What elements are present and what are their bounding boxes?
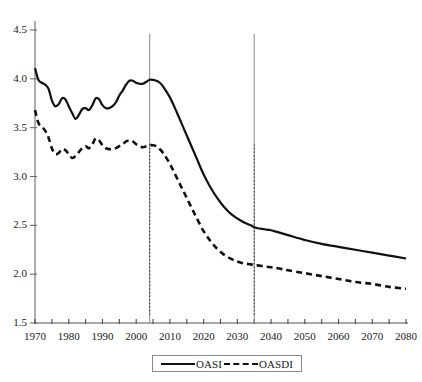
chart-container: 1.52.02.53.03.54.04.5 197019801990200020… xyxy=(0,0,422,382)
legend-label-oasi: OASI xyxy=(196,358,222,370)
vertical-reference-lines xyxy=(150,34,255,323)
y-tick-label: 1.5 xyxy=(0,317,27,328)
y-tick-label: 2.5 xyxy=(0,219,27,230)
legend-entry-oasi: OASI xyxy=(161,358,222,370)
y-tick-label: 3.5 xyxy=(0,122,27,133)
legend-entry-oasdi: OASDI xyxy=(222,358,293,370)
legend-line-solid-icon xyxy=(161,363,195,365)
series-line-oasi xyxy=(35,68,406,258)
y-tick-label: 3.0 xyxy=(0,171,27,182)
data-series-group xyxy=(35,68,406,289)
legend-line-dashed-icon xyxy=(224,363,258,365)
y-tick-label: 4.0 xyxy=(0,73,27,84)
y-tick-label: 2.0 xyxy=(0,268,27,279)
y-tick-label: 4.5 xyxy=(0,24,27,35)
chart-legend: OASI OASDI xyxy=(152,355,302,372)
legend-label-oasdi: OASDI xyxy=(259,358,293,370)
axes-group xyxy=(30,21,408,324)
series-line-oasdi xyxy=(35,110,406,289)
x-tick-label: 2080 xyxy=(386,331,422,342)
plot-area xyxy=(0,0,422,382)
